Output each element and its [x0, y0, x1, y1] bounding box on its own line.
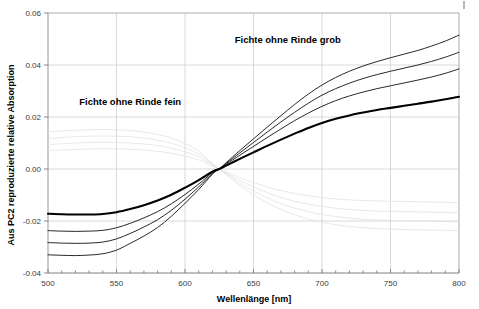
x-tick-labels: 500550600650700750800 — [41, 279, 466, 288]
x-tick-label: 650 — [247, 279, 261, 288]
chart-container: -0.04-0.020.000.020.040.06 5005506006507… — [0, 0, 479, 309]
y-tick-labels: -0.04-0.020.000.020.040.06 — [23, 9, 42, 278]
x-tick-label: 500 — [41, 279, 55, 288]
x-tick-label: 600 — [178, 279, 192, 288]
y-axis-title: Aus PC2 reproduzierte relative Absorptio… — [6, 64, 16, 245]
plot-annotations: Fichte ohne Rinde grobFichte ohne Rinde … — [79, 34, 341, 107]
x-tick-label: 800 — [452, 279, 466, 288]
x-tick-label: 750 — [384, 279, 398, 288]
annotation-grob: Fichte ohne Rinde grob — [235, 34, 341, 45]
y-tick-label: -0.02 — [23, 217, 42, 226]
x-axis-title: Wellenlänge [nm] — [217, 294, 291, 304]
y-tick-label: 0.02 — [25, 113, 41, 122]
tick-marks — [44, 13, 459, 273]
annotation-fein: Fichte ohne Rinde fein — [79, 96, 181, 107]
y-tick-label: 0.00 — [25, 165, 41, 174]
spectral-line-chart: -0.04-0.020.000.020.040.06 5005506006507… — [0, 0, 479, 309]
y-tick-label: 0.04 — [25, 61, 41, 70]
y-tick-label: 0.06 — [25, 9, 41, 18]
x-tick-label: 550 — [110, 279, 124, 288]
x-tick-label: 700 — [315, 279, 329, 288]
y-tick-label: -0.04 — [23, 269, 42, 278]
